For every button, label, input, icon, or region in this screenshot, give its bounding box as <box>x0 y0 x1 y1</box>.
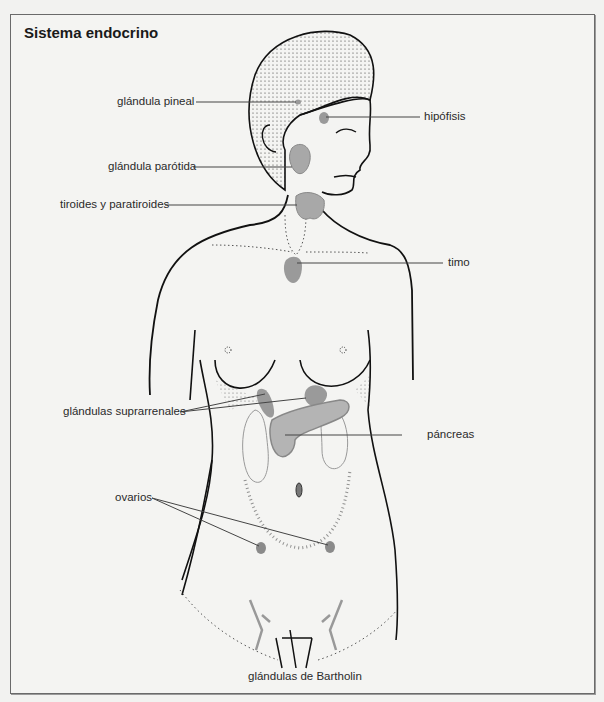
label-glandula-parotida: glándula parótida <box>108 160 196 172</box>
bartholin-glands <box>250 600 342 650</box>
body-left-outline <box>149 195 288 395</box>
label-hipofisis: hipófisis <box>424 110 466 122</box>
left-nipple <box>225 347 231 353</box>
navel <box>296 483 302 497</box>
label-ovarios: ovarios <box>115 491 152 503</box>
body-right-outline <box>322 210 413 380</box>
thyroid-gland <box>296 193 325 219</box>
parotid-gland <box>290 144 311 173</box>
female-body-illustration <box>0 0 604 702</box>
label-tiroides-paratiroides: tiroides y paratiroides <box>60 198 169 210</box>
eye <box>336 129 356 133</box>
label-pancreas: páncreas <box>427 428 474 440</box>
right-ovary <box>325 541 335 553</box>
pancreas-gland <box>270 400 349 457</box>
label-glandulas-bartholin: glándulas de Bartholin <box>248 670 362 682</box>
left-arm-inner <box>182 330 213 580</box>
right-waist <box>368 330 397 640</box>
vulva-outline <box>276 630 312 668</box>
thymus-gland <box>284 257 302 283</box>
face <box>300 99 371 195</box>
label-glandula-pineal: glándula pineal <box>117 95 194 107</box>
left-ovary <box>256 542 266 554</box>
diagram-title: Sistema endocrino <box>24 24 158 41</box>
right-breast <box>300 360 370 386</box>
pituitary-gland <box>319 112 329 124</box>
label-timo: timo <box>448 256 470 268</box>
lips <box>334 176 356 178</box>
label-glandulas-suprarrenales: glándulas suprarrenales <box>63 405 186 417</box>
left-kidney <box>243 410 269 482</box>
left-hip <box>182 460 212 595</box>
right-nipple <box>340 347 346 353</box>
